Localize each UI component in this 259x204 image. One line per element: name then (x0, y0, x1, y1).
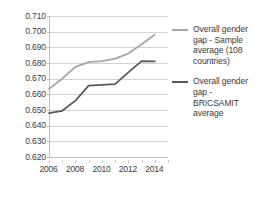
x-tick-mark (62, 160, 63, 163)
line-chart: 0.7100.7000.6900.6800.6700.6600.6500.640… (0, 0, 259, 204)
x-tick-label: 2010 (92, 165, 110, 174)
x-tick-label: 2012 (119, 165, 137, 174)
x-tick-label: 2008 (66, 165, 84, 174)
x-tick-mark (142, 160, 143, 163)
chart-legend: Overall gender gap - Sample average (108… (172, 24, 258, 125)
y-tick-label: 0.680 (2, 59, 46, 68)
y-tick-label: 0.660 (2, 90, 46, 99)
x-axis-line (49, 157, 168, 158)
x-axis-labels: 20062008201020122014 (49, 160, 168, 180)
y-tick-label: 0.640 (2, 121, 46, 130)
x-tick-label: 2014 (145, 165, 163, 174)
x-tick-label: 2006 (40, 165, 58, 174)
y-tick-label: 0.710 (2, 12, 46, 21)
legend-label: Overall gender gap - BRICSAMIT average (193, 76, 258, 118)
y-tick-label: 0.620 (2, 153, 46, 162)
x-tick-mark (155, 160, 156, 163)
legend-entry[interactable]: Overall gender gap - Sample average (108… (172, 24, 258, 66)
legend-entry[interactable]: Overall gender gap - BRICSAMIT average (172, 76, 258, 118)
x-tick-mark (89, 160, 90, 163)
y-tick-label: 0.670 (2, 74, 46, 83)
y-tick-label: 0.690 (2, 43, 46, 52)
x-tick-mark (115, 160, 116, 163)
x-tick-mark (102, 160, 103, 163)
x-tick-mark (49, 160, 50, 163)
legend-color-swatch (172, 81, 188, 83)
series-line (49, 35, 155, 89)
y-tick-label: 0.630 (2, 137, 46, 146)
x-tick-mark (75, 160, 76, 163)
legend-color-swatch (172, 29, 188, 31)
y-axis-labels: 0.7100.7000.6900.6800.6700.6600.6500.640… (0, 16, 46, 157)
x-tick-mark (168, 160, 169, 163)
plot-area (49, 16, 168, 157)
series-line (49, 61, 155, 113)
y-tick-label: 0.650 (2, 106, 46, 115)
x-tick-mark (128, 160, 129, 163)
y-tick-label: 0.700 (2, 27, 46, 36)
series-lines (49, 16, 168, 157)
legend-label: Overall gender gap - Sample average (108… (193, 24, 258, 66)
